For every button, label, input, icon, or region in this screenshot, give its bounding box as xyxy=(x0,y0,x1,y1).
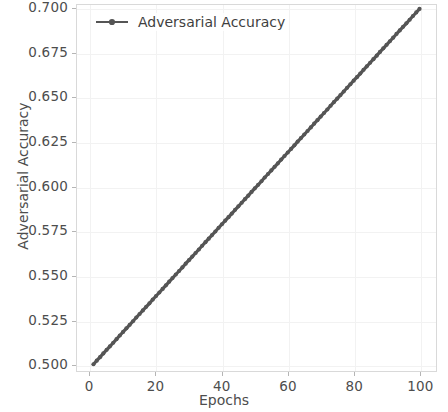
y-tick-label: 0.625 xyxy=(14,133,68,149)
data-point-marker xyxy=(332,100,336,104)
data-point-marker xyxy=(385,43,389,47)
data-point-marker xyxy=(325,107,329,111)
data-point-marker xyxy=(315,118,319,122)
data-point-marker xyxy=(213,229,217,233)
data-point-marker xyxy=(111,341,115,345)
data-point-marker xyxy=(375,54,379,58)
legend-label-adversarial-accuracy: Adversarial Accuracy xyxy=(138,14,285,30)
data-point-marker xyxy=(371,57,375,61)
data-point-marker xyxy=(296,140,300,144)
x-tick-mark xyxy=(288,372,289,376)
data-point-marker xyxy=(233,208,237,212)
y-tick-label: 0.500 xyxy=(14,356,68,372)
data-point-marker xyxy=(338,93,342,97)
data-point-marker xyxy=(256,183,260,187)
data-point-marker xyxy=(266,172,270,176)
y-tick-label: 0.650 xyxy=(14,88,68,104)
data-point-marker xyxy=(154,294,158,298)
data-point-marker xyxy=(411,14,415,18)
data-point-marker xyxy=(108,344,112,348)
data-point-marker xyxy=(170,276,174,280)
data-point-marker xyxy=(398,28,402,32)
data-point-marker xyxy=(226,215,230,219)
data-point-marker xyxy=(276,161,280,165)
data-point-marker xyxy=(259,179,263,183)
data-point-marker xyxy=(124,326,128,330)
data-point-marker xyxy=(335,97,339,101)
data-point-marker xyxy=(292,143,296,147)
data-point-marker xyxy=(305,129,309,133)
data-point-marker xyxy=(243,197,247,201)
y-tick-label: 0.550 xyxy=(14,267,68,283)
legend-line-marker-icon xyxy=(95,16,129,28)
data-point-marker xyxy=(210,233,214,237)
data-point-marker xyxy=(187,258,191,262)
x-axis-title: Epochs xyxy=(0,392,448,408)
data-point-marker xyxy=(141,308,145,312)
x-tick-mark xyxy=(354,372,355,376)
data-point-marker xyxy=(269,168,273,172)
x-tick-mark xyxy=(89,372,90,376)
data-point-marker xyxy=(404,21,408,25)
data-point-marker xyxy=(282,154,286,158)
data-point-marker xyxy=(118,333,122,337)
y-tick-label: 0.675 xyxy=(14,44,68,60)
data-point-marker xyxy=(190,254,194,258)
data-point-marker xyxy=(200,244,204,248)
data-point-marker xyxy=(134,315,138,319)
data-point-marker xyxy=(378,50,382,54)
data-point-marker xyxy=(394,32,398,36)
data-point-marker xyxy=(203,240,207,244)
data-point-marker xyxy=(355,75,359,79)
data-point-marker xyxy=(408,18,412,22)
data-point-marker xyxy=(381,46,385,50)
data-point-marker xyxy=(137,312,141,316)
data-point-marker xyxy=(114,337,118,341)
data-point-marker xyxy=(358,71,362,75)
data-point-marker xyxy=(414,10,418,14)
data-point-marker xyxy=(246,194,250,198)
data-point-marker xyxy=(368,61,372,65)
data-point-marker xyxy=(220,222,224,226)
data-point-marker xyxy=(401,25,405,29)
data-point-marker xyxy=(348,82,352,86)
data-point-marker xyxy=(352,79,356,83)
data-point-marker xyxy=(105,348,109,352)
y-tick-label: 0.575 xyxy=(14,222,68,238)
data-point-marker xyxy=(388,39,392,43)
data-point-marker xyxy=(391,36,395,40)
data-point-marker xyxy=(345,86,349,90)
data-point-marker xyxy=(180,265,184,269)
data-point-marker xyxy=(164,283,168,287)
data-point-marker xyxy=(144,305,148,309)
data-point-marker xyxy=(236,204,240,208)
data-point-marker xyxy=(98,355,102,359)
data-point-marker xyxy=(157,290,161,294)
x-tick-mark xyxy=(222,372,223,376)
data-point-marker xyxy=(230,211,234,215)
data-point-marker xyxy=(299,136,303,140)
data-series-layer xyxy=(77,5,436,371)
x-tick-mark xyxy=(155,372,156,376)
data-point-marker xyxy=(329,104,333,108)
data-point-marker xyxy=(217,226,221,230)
data-point-marker xyxy=(302,132,306,136)
data-point-marker xyxy=(91,362,95,366)
data-point-marker xyxy=(167,280,171,284)
data-point-marker xyxy=(342,89,346,93)
legend: Adversarial Accuracy xyxy=(91,13,289,31)
data-point-marker xyxy=(322,111,326,115)
data-point-marker xyxy=(177,269,181,273)
data-point-marker xyxy=(147,301,151,305)
data-point-marker xyxy=(128,323,132,327)
y-tick-label: 0.525 xyxy=(14,312,68,328)
x-tick-mark xyxy=(420,372,421,376)
data-point-marker xyxy=(365,64,369,68)
data-point-marker xyxy=(309,125,313,129)
data-point-marker xyxy=(193,251,197,255)
data-point-marker xyxy=(286,150,290,154)
data-point-marker xyxy=(289,147,293,151)
data-point-marker xyxy=(131,319,135,323)
plot-area: Adversarial Accuracy xyxy=(76,4,437,372)
data-point-marker xyxy=(121,330,125,334)
